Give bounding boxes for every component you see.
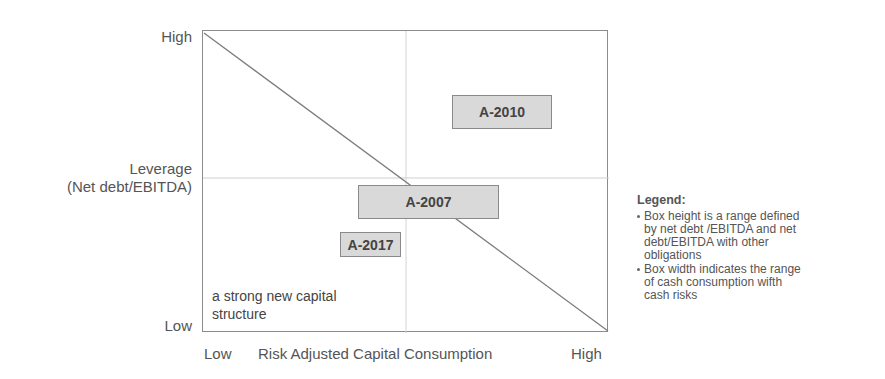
x-axis-title: Risk Adjusted Capital Consumption [258, 345, 492, 362]
legend-item-box-height: Box height is a range defined by net deb… [637, 210, 804, 262]
x-axis-low-label: Low [204, 345, 232, 362]
box-a2017: A-2017 [340, 232, 401, 257]
y-axis-title-line2: (Net debt/EBITDA) [67, 178, 192, 196]
legend-list: Box height is a range defined by net deb… [637, 210, 877, 302]
legend-item-box-width: Box width indicates the range of cash co… [637, 263, 809, 302]
y-axis-title-line1: Leverage [67, 160, 192, 178]
plot-area: A-2010 A-2007 A-2017 a strong new capita… [202, 30, 608, 332]
y-axis-title: Leverage (Net debt/EBITDA) [67, 160, 192, 196]
annotation-text: a strong new capital structure [212, 287, 337, 323]
legend: Legend: Box height is a range defined by… [637, 194, 877, 303]
box-a2010: A-2010 [452, 95, 552, 129]
legend-title: Legend: [637, 194, 877, 207]
annotation-line2: structure [212, 305, 337, 323]
annotation-line1: a strong new capital [212, 287, 337, 305]
y-axis-high-label: High [161, 28, 192, 46]
x-axis-high-label: High [571, 345, 602, 362]
box-a2007: A-2007 [358, 185, 499, 219]
y-axis-low-label: Low [164, 317, 192, 335]
